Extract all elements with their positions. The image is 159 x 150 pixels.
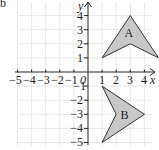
svg-text:3: 3	[127, 73, 133, 87]
svg-text:−5: −5	[70, 135, 83, 149]
svg-text:−2: −2	[70, 93, 83, 107]
x-axis-label: x	[149, 73, 156, 87]
svg-text:2: 2	[77, 37, 83, 51]
svg-text:3: 3	[77, 23, 83, 37]
shape-a-label: A	[125, 26, 134, 40]
part-label: b	[0, 0, 6, 10]
svg-text:1: 1	[99, 73, 105, 87]
svg-text:−3: −3	[70, 107, 83, 121]
shape-b-label: B	[121, 108, 129, 122]
svg-text:−2: −2	[51, 73, 64, 87]
svg-text:−4: −4	[70, 121, 83, 135]
svg-text:−1: −1	[73, 79, 86, 93]
svg-text:2: 2	[113, 73, 119, 87]
coordinate-diagram: b A B	[0, 0, 159, 150]
svg-text:1: 1	[77, 51, 83, 65]
svg-text:4: 4	[77, 9, 83, 23]
svg-text:−4: −4	[23, 73, 36, 87]
svg-text:4: 4	[141, 73, 147, 87]
svg-text:−5: −5	[9, 73, 22, 87]
svg-text:−3: −3	[37, 73, 50, 87]
